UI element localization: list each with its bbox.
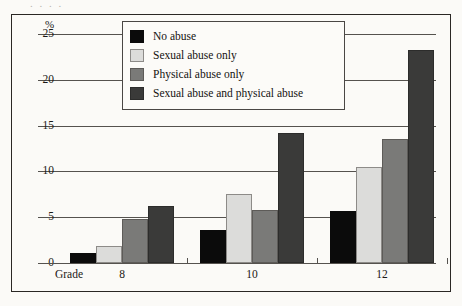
bar-grade-10-sexual-abuse-only	[226, 194, 252, 263]
bar-grade-10-no-abuse	[200, 230, 226, 263]
plot-area: % 2520151050 81012Grade No abuseSexual a…	[12, 15, 452, 293]
legend-row-1: Sexual abuse only	[130, 46, 337, 65]
x-group-tick-10	[317, 258, 318, 264]
x-group-tick-8	[187, 258, 188, 264]
bar-grade-8-no-abuse	[70, 253, 96, 263]
x-axis-label-grade-8: 8	[102, 268, 142, 281]
x-axis-label-grade-10: 10	[232, 268, 272, 281]
bar-grade-12-no-abuse	[330, 211, 356, 263]
figure-page: . . . . % 2520151050 81012Grade No abuse…	[0, 0, 462, 306]
bar-grade-10-physical-abuse-only	[252, 210, 278, 263]
x-axis-label-grade-12: 12	[362, 268, 402, 281]
x-axis-line	[45, 263, 436, 264]
bar-grade-12-sexual-abuse-only	[356, 167, 382, 263]
legend-swatch-no-abuse	[130, 30, 144, 43]
bar-grade-10-sexual-abuse-and-physical-abuse	[278, 133, 304, 263]
bar-grade-12-physical-abuse-only	[382, 139, 408, 263]
bar-grade-8-sexual-abuse-only	[96, 246, 122, 263]
legend-row-2: Physical abuse only	[130, 65, 337, 84]
cut-off-text-above-figure: . . . .	[0, 0, 462, 10]
legend-label-2: Physical abuse only	[153, 68, 244, 81]
bar-grade-12-sexual-abuse-and-physical-abuse	[408, 50, 434, 263]
legend-label-3: Sexual abuse and physical abuse	[153, 87, 303, 100]
bar-grade-8-sexual-abuse-and-physical-abuse	[148, 206, 174, 263]
legend-label-0: No abuse	[153, 30, 196, 43]
bar-grade-8-physical-abuse-only	[122, 219, 148, 263]
legend-row-3: Sexual abuse and physical abuse	[130, 84, 337, 103]
legend-row-0: No abuse	[130, 27, 337, 46]
x-group-tick-12	[447, 258, 448, 264]
legend-swatch-sexual-abuse-only	[130, 49, 144, 62]
legend-swatch-sexual-and-physical-abuse	[130, 87, 144, 100]
chart-legend: No abuseSexual abuse onlyPhysical abuse …	[122, 21, 345, 110]
figure-frame: % 2520151050 81012Grade No abuseSexual a…	[11, 14, 451, 292]
legend-swatch-physical-abuse-only	[130, 68, 144, 81]
legend-label-1: Sexual abuse only	[153, 49, 237, 62]
x-axis-prefix-label: Grade	[47, 268, 91, 281]
